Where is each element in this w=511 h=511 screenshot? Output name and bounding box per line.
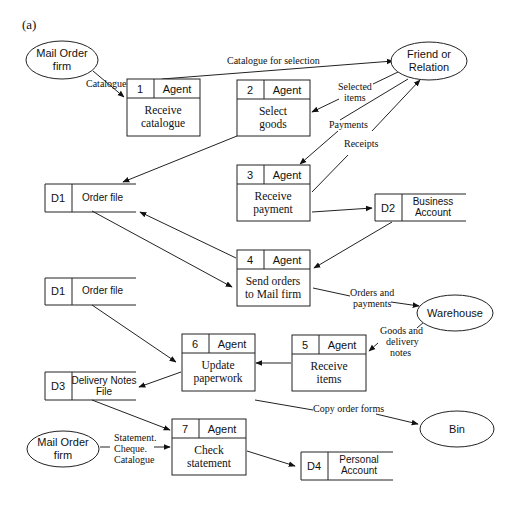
process-5-receive-items: 5 Agent Receive items (292, 335, 366, 391)
svg-text:Agent: Agent (273, 84, 302, 96)
data-flow-diagram: (a) (0, 0, 511, 511)
svg-text:Agent: Agent (163, 83, 192, 95)
svg-text:2: 2 (247, 84, 253, 96)
svg-text:3: 3 (247, 169, 253, 181)
figure-label: (a) (22, 17, 36, 32)
svg-text:Delivery Notes: Delivery Notes (71, 375, 136, 386)
process-3-receive-payment: 3 Agent Receive payment (237, 165, 310, 221)
svg-text:Warehouse: Warehouse (427, 307, 483, 319)
svg-text:Receive: Receive (254, 190, 291, 202)
svg-text:Friend or: Friend or (407, 48, 451, 60)
flow-label-catalogue-for-selection: Catalogue for selection (227, 55, 320, 66)
svg-text:goods: goods (259, 118, 287, 131)
flow-label-orders-and-payments: payments (353, 298, 391, 309)
svg-text:Agent: Agent (273, 169, 302, 181)
svg-text:Receive: Receive (144, 104, 181, 116)
process-1-receive-catalogue: 1 Agent Receive catalogue (127, 79, 200, 136)
svg-text:Mail Order: Mail Order (37, 436, 89, 448)
svg-text:Agent: Agent (273, 254, 302, 266)
svg-text:Send orders: Send orders (246, 275, 301, 287)
svg-text:Agent: Agent (328, 339, 357, 351)
flow-label-goods-and-delivery-notes: delivery (386, 336, 419, 347)
flow-label-statement-cheque-catalogue: Statement. (114, 432, 157, 443)
svg-text:6: 6 (192, 338, 198, 350)
svg-text:D3: D3 (51, 380, 65, 392)
svg-text:Business: Business (413, 196, 454, 207)
flow-label-statement-cheque-catalogue: Catalogue (114, 454, 155, 465)
svg-text:D4: D4 (307, 460, 321, 472)
data-store-d4-personal-account: D4 Personal Account (301, 452, 393, 480)
external-entity-mail-order-firm: Mail Order firm (26, 41, 98, 79)
flow-label-payments: Payments (329, 119, 368, 130)
svg-text:firm: firm (53, 60, 71, 72)
svg-text:payment: payment (253, 203, 293, 216)
data-store-d3-delivery-notes-file: D3 Delivery Notes File (45, 372, 137, 400)
svg-text:to Mail firm: to Mail firm (245, 288, 301, 300)
svg-text:statement: statement (187, 457, 232, 469)
flow-label-orders-and-payments: Orders and (350, 287, 394, 298)
data-store-d1-order-file-2: D1 Order file (45, 278, 136, 305)
flow-label-selected-items: items (344, 92, 366, 103)
svg-text:items: items (317, 373, 342, 385)
svg-text:Agent: Agent (208, 423, 237, 435)
process-2-select-goods: 2 Agent Select goods (237, 80, 310, 136)
external-entity-warehouse: Warehouse (417, 295, 493, 331)
svg-text:D2: D2 (381, 202, 395, 214)
svg-text:D1: D1 (51, 192, 65, 204)
svg-text:Relation: Relation (409, 61, 449, 73)
svg-text:paperwork: paperwork (193, 372, 242, 385)
svg-text:Mail Order: Mail Order (36, 47, 88, 59)
svg-text:Account: Account (415, 207, 451, 218)
svg-text:Update: Update (201, 359, 234, 372)
flow-label-goods-and-delivery-notes: notes (390, 347, 411, 358)
process-6-update-paperwork: 6 Agent Update paperwork (182, 334, 255, 391)
svg-text:1: 1 (137, 83, 143, 95)
process-4-send-orders: 4 Agent Send orders to Mail firm (237, 250, 310, 306)
external-entity-mail-order-firm-2: Mail Order firm (27, 431, 99, 467)
svg-text:Order file: Order file (82, 192, 124, 203)
svg-text:firm: firm (54, 449, 72, 461)
flow-label-goods-and-delivery-notes: Goods and (380, 325, 423, 336)
data-store-d2-business-account: D2 Business Account (375, 194, 466, 221)
external-entity-bin: Bin (420, 411, 494, 447)
flow-label-selected-items: Selected (338, 81, 372, 92)
svg-text:Bin: Bin (449, 423, 465, 435)
flow-label-receipts: Receipts (344, 138, 379, 149)
flow-label-copy-order-forms: Copy order forms (313, 403, 384, 414)
svg-text:4: 4 (247, 254, 253, 266)
svg-text:catalogue: catalogue (141, 117, 185, 130)
svg-text:Agent: Agent (218, 338, 247, 350)
svg-text:D1: D1 (51, 285, 65, 297)
svg-text:Account: Account (341, 465, 377, 476)
svg-text:File: File (96, 386, 113, 397)
svg-text:Order file: Order file (82, 285, 124, 296)
svg-text:Select: Select (259, 105, 288, 117)
external-entity-friend-or-relation: Friend or Relation (391, 42, 467, 80)
svg-text:Personal: Personal (339, 454, 378, 465)
flow-label-catalogue: Catalogue (86, 78, 127, 89)
data-store-d1-order-file: D1 Order file (45, 184, 136, 212)
svg-text:Check: Check (194, 444, 224, 456)
flow-label-statement-cheque-catalogue: Cheque. (114, 443, 147, 454)
svg-text:7: 7 (182, 423, 188, 435)
svg-text:5: 5 (302, 339, 308, 351)
process-7-check-statement: 7 Agent Check statement (172, 419, 246, 475)
svg-text:Receive: Receive (310, 360, 347, 372)
